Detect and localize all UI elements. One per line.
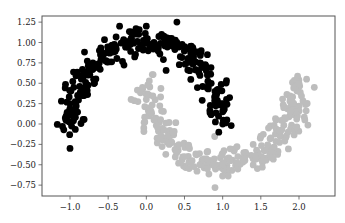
data-point-cluster-0	[174, 39, 181, 46]
data-point-cluster-0	[128, 35, 135, 42]
data-point-cluster-1	[128, 96, 135, 103]
data-point-cluster-0	[81, 92, 88, 99]
data-point-cluster-0	[143, 35, 150, 42]
data-point-cluster-1	[265, 125, 272, 132]
data-point-cluster-0	[70, 107, 77, 114]
data-point-cluster-0	[112, 43, 119, 50]
data-point-cluster-0	[160, 56, 167, 63]
data-point-cluster-1	[282, 115, 289, 122]
data-point-cluster-0	[104, 59, 111, 66]
data-point-cluster-1	[141, 128, 148, 135]
y-tick-label: −0.25	[10, 139, 36, 149]
data-point-cluster-0	[212, 88, 219, 95]
y-axis: 1.251.000.750.500.250.00−0.25−0.50−0.75	[10, 17, 42, 190]
data-point-cluster-0	[143, 23, 150, 30]
data-point-cluster-1	[273, 117, 280, 124]
data-point-cluster-1	[285, 129, 292, 136]
data-point-cluster-0	[176, 61, 183, 68]
data-point-cluster-1	[149, 93, 156, 100]
data-point-cluster-0	[196, 60, 203, 67]
x-axis: −1.0−0.50.00.51.01.52.0	[60, 196, 306, 212]
data-point-cluster-0	[132, 51, 139, 58]
x-tick-label: −1.0	[60, 202, 81, 212]
data-point-cluster-1	[141, 119, 148, 126]
data-point-cluster-1	[257, 133, 264, 140]
data-point-cluster-1	[219, 161, 226, 168]
data-point-cluster-1	[258, 142, 265, 149]
data-point-cluster-1	[219, 173, 226, 180]
data-point-cluster-0	[166, 35, 173, 42]
data-point-cluster-1	[276, 128, 283, 135]
data-point-cluster-0	[219, 108, 226, 115]
data-point-cluster-0	[93, 76, 100, 83]
data-point-cluster-0	[135, 31, 142, 38]
data-point-cluster-1	[185, 142, 192, 149]
data-point-cluster-1	[186, 165, 193, 172]
data-point-cluster-0	[79, 66, 86, 73]
data-point-cluster-0	[81, 116, 88, 123]
data-point-cluster-1	[234, 166, 241, 173]
data-point-cluster-0	[116, 23, 123, 30]
data-point-cluster-0	[158, 31, 165, 38]
data-point-cluster-1	[227, 145, 234, 152]
data-point-cluster-1	[281, 138, 288, 145]
data-point-cluster-0	[190, 61, 197, 68]
data-point-cluster-0	[97, 66, 104, 73]
data-point-cluster-0	[72, 126, 79, 133]
data-point-cluster-0	[219, 121, 226, 128]
y-tick-label: 0.50	[17, 78, 36, 88]
data-point-cluster-1	[303, 76, 310, 83]
data-point-cluster-1	[196, 161, 203, 168]
data-point-cluster-1	[174, 149, 181, 156]
data-point-cluster-0	[60, 126, 67, 133]
data-point-cluster-0	[66, 94, 73, 101]
data-point-cluster-0	[186, 67, 193, 74]
data-point-cluster-0	[70, 84, 77, 91]
data-point-cluster-1	[234, 143, 241, 150]
data-point-cluster-0	[120, 39, 127, 46]
data-point-cluster-1	[154, 125, 161, 132]
data-point-cluster-1	[296, 80, 303, 87]
y-tick-label: 0.00	[17, 119, 36, 129]
data-point-cluster-1	[162, 151, 169, 158]
scatter-chart: −1.0−0.50.00.51.01.52.0 1.251.000.750.50…	[0, 0, 345, 223]
data-point-cluster-1	[242, 149, 249, 156]
y-tick-label: 1.25	[17, 17, 36, 27]
x-tick-label: 1.5	[254, 202, 268, 212]
data-point-cluster-1	[181, 153, 188, 160]
data-point-cluster-1	[166, 141, 173, 148]
data-point-cluster-1	[279, 96, 286, 103]
x-tick-label: −0.5	[98, 202, 119, 212]
data-point-cluster-0	[215, 129, 222, 136]
data-point-cluster-1	[285, 146, 292, 153]
data-point-cluster-1	[204, 149, 211, 156]
data-point-cluster-1	[147, 104, 154, 111]
data-point-cluster-1	[311, 84, 318, 91]
data-point-cluster-1	[161, 126, 168, 133]
data-point-cluster-0	[90, 60, 97, 67]
data-point-cluster-0	[181, 43, 188, 50]
scatter-points	[54, 19, 318, 191]
data-point-cluster-1	[268, 154, 275, 161]
data-point-cluster-1	[219, 152, 226, 159]
data-point-cluster-0	[199, 97, 206, 104]
data-point-cluster-1	[280, 104, 287, 111]
x-tick-label: 2.0	[292, 202, 306, 212]
data-point-cluster-0	[69, 78, 76, 85]
data-point-cluster-1	[303, 107, 310, 114]
data-point-cluster-1	[170, 129, 177, 136]
data-point-cluster-1	[235, 153, 242, 160]
data-point-cluster-1	[212, 161, 219, 168]
data-point-cluster-1	[252, 156, 259, 163]
data-point-cluster-0	[223, 96, 230, 103]
data-point-cluster-1	[151, 117, 158, 124]
data-point-cluster-1	[143, 96, 150, 103]
data-point-cluster-1	[192, 151, 199, 158]
data-point-cluster-0	[212, 119, 219, 126]
y-tick-label: 0.75	[17, 58, 36, 68]
data-point-cluster-1	[212, 184, 219, 191]
data-point-cluster-1	[268, 134, 275, 141]
y-tick-label: −0.75	[10, 180, 36, 190]
data-point-cluster-0	[121, 62, 128, 69]
data-point-cluster-0	[204, 72, 211, 79]
